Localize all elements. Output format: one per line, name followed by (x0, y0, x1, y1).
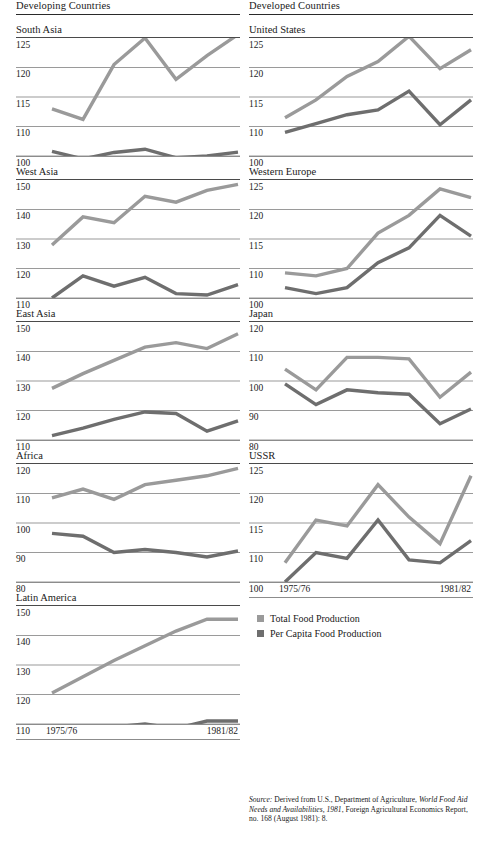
series-line-total (52, 334, 238, 389)
plot-area: 150140130120110 (16, 322, 240, 440)
chart-legend: Total Food ProductionPer Capita Food Pro… (249, 612, 473, 640)
legend-swatch-icon (257, 615, 264, 622)
panel-united-states: United States125120115110100 (249, 24, 473, 157)
panel-south-asia: South Asia125120115110100 (16, 24, 240, 157)
source-label: Source: (249, 795, 272, 804)
panel-title: West Asia (16, 166, 240, 178)
panel-title: East Asia (16, 308, 240, 320)
panel-africa: Africa1201101009080 (16, 450, 240, 583)
panel-west-asia: West Asia150140130120110 (16, 166, 240, 299)
source-text-a: Derived from U.S., Department of Agricul… (272, 795, 419, 804)
panel-japan: Japan1201101009080 (249, 308, 473, 441)
panel-title: USSR (249, 450, 473, 462)
panel-title: Latin America (16, 592, 240, 604)
series-line-per_capita (52, 721, 238, 724)
series-line-total (285, 38, 471, 118)
panel-ussr: USSR1251201151101001975/761981/82 (249, 450, 473, 598)
series-line-per_capita (52, 412, 238, 436)
column-developed: Developed Countries United States1251201… (249, 0, 473, 847)
legend-label: Total Food Production (270, 612, 360, 625)
series-line-per_capita (52, 533, 238, 557)
panel-list-developed: United States125120115110100Western Euro… (249, 24, 473, 598)
series-line-per_capita (52, 149, 238, 156)
panel-western-europe: Western Europe125120115110100 (249, 166, 473, 299)
plot-area: 125120115110100 (16, 38, 240, 156)
x-axis-start-label: 1975/76 (279, 584, 310, 594)
column-heading-rule (249, 14, 473, 15)
legend-item: Per Capita Food Production (257, 627, 473, 640)
column-heading-developing: Developing Countries (16, 0, 240, 14)
panel-title: South Asia (16, 24, 240, 36)
plot-area: 125120115110100 (249, 38, 473, 156)
panel-bottom-rule (16, 298, 240, 299)
panel-bottom-rule (249, 156, 473, 157)
panel-bottom-rule (16, 440, 240, 441)
plot-area: 125120115110100 (249, 180, 473, 298)
series-line-total (52, 184, 238, 244)
panel-list-developing: South Asia125120115110100West Asia150140… (16, 24, 240, 740)
panel-title: Africa (16, 450, 240, 462)
series-line-total (52, 468, 238, 499)
chart-page: Developing Countries South Asia125120115… (0, 0, 481, 847)
panel-title: Western Europe (249, 166, 473, 178)
x-axis-start-label: 1975/76 (46, 726, 77, 736)
x-axis-rule (249, 597, 473, 598)
legend-item: Total Food Production (257, 612, 473, 625)
panel-bottom-rule (16, 156, 240, 157)
legend-label: Per Capita Food Production (270, 627, 381, 640)
series-line-per_capita (285, 384, 471, 424)
series-line-per_capita (52, 276, 238, 298)
column-heading-rule (16, 14, 240, 15)
column-heading-developed: Developed Countries (249, 0, 473, 14)
series-line-total (52, 38, 238, 119)
legend-swatch-icon (257, 630, 264, 637)
plot-area: 150140130120110 (16, 180, 240, 298)
x-axis: 1975/761981/82 (16, 725, 240, 739)
column-developing: Developing Countries South Asia125120115… (16, 0, 240, 847)
source-note: Source: Derived from U.S., Department of… (249, 795, 475, 824)
x-axis: 1975/761981/82 (249, 583, 473, 597)
panel-title: Japan (249, 308, 473, 320)
panel-bottom-rule (16, 582, 240, 583)
x-axis-end-label: 1981/82 (207, 726, 238, 736)
panel-bottom-rule (249, 440, 473, 441)
series-line-per_capita (285, 520, 471, 582)
panel-bottom-rule (249, 298, 473, 299)
x-axis-end-label: 1981/82 (440, 584, 471, 594)
panel-latin-america: Latin America1501401301201101975/761981/… (16, 592, 240, 740)
plot-area: 150140130120110 (16, 606, 240, 724)
panel-east-asia: East Asia150140130120110 (16, 308, 240, 441)
series-line-total (52, 619, 238, 693)
series-line-per_capita (285, 215, 471, 293)
panel-title: United States (249, 24, 473, 36)
plot-area: 125120115110100 (249, 464, 473, 582)
plot-area: 1201101009080 (249, 322, 473, 440)
plot-area: 1201101009080 (16, 464, 240, 582)
x-axis-rule (16, 739, 240, 740)
